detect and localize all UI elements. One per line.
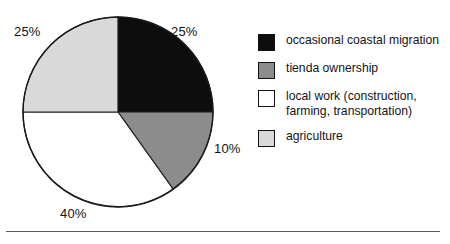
legend-swatch-icon-tienda-ownership bbox=[258, 62, 275, 79]
legend-item-agriculture: agriculture bbox=[258, 129, 450, 147]
legend-swatch-icon-agriculture bbox=[258, 130, 275, 147]
legend-label-agriculture: agriculture bbox=[286, 129, 343, 144]
legend-label-local-work: local work (construction, farming, trans… bbox=[286, 89, 446, 119]
legend-item-local-work: local work (construction, farming, trans… bbox=[258, 89, 450, 119]
pie-chart-plot-area: 25% 25% 10% 40% bbox=[0, 0, 250, 232]
legend-label-tienda-ownership: tienda ownership bbox=[286, 61, 378, 76]
pie-label-occasional-coastal-migration: 25% bbox=[171, 24, 198, 39]
pie-label-local-work: 40% bbox=[60, 206, 87, 221]
pie-label-agriculture: 25% bbox=[14, 24, 41, 39]
pie-slice-occasional-coastal-migration bbox=[118, 17, 213, 112]
legend-item-tienda-ownership: tienda ownership bbox=[258, 61, 450, 79]
legend-swatch-icon-local-work bbox=[258, 90, 275, 107]
pie-chart-figure: 25% 25% 10% 40% occasional coastal migra… bbox=[0, 0, 450, 244]
pie-label-tienda-ownership: 10% bbox=[214, 141, 241, 156]
chart-legend: occasional coastal migration tienda owne… bbox=[258, 33, 450, 157]
bottom-divider bbox=[6, 231, 440, 232]
legend-swatch-icon-occasional-coastal-migration bbox=[258, 34, 275, 51]
legend-item-occasional-coastal-migration: occasional coastal migration bbox=[258, 33, 450, 51]
legend-label-occasional-coastal-migration: occasional coastal migration bbox=[286, 33, 439, 48]
